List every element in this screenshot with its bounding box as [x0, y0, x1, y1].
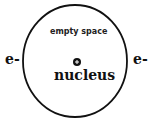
empty-space-label: empty space — [50, 27, 107, 36]
atom-diagram — [0, 0, 154, 123]
electron-right-label: e- — [133, 51, 148, 67]
nucleus-icon — [73, 58, 81, 66]
electron-left-label: e- — [5, 51, 20, 67]
nucleus-label: nucleus — [54, 67, 115, 83]
